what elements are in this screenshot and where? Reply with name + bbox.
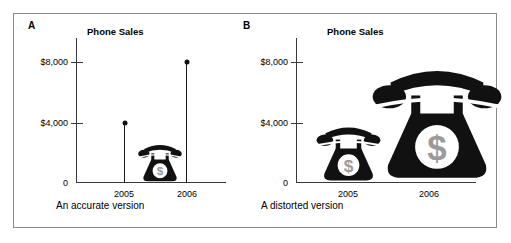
panel-a-y-axis xyxy=(76,38,77,183)
panel-a-title: Phone Sales xyxy=(87,26,144,37)
panel-b-ytick-4000 xyxy=(291,123,303,124)
svg-text:$: $ xyxy=(344,156,354,176)
panel-b-ylabel-8000: $8,000 xyxy=(260,57,288,67)
figure-container: A Phone Sales $8,000 $4,000 0 xyxy=(0,0,511,243)
svg-text:$: $ xyxy=(427,129,446,167)
panel-a: A Phone Sales $8,000 $4,000 0 xyxy=(14,14,254,227)
panel-a-xtick-2006: 2006 xyxy=(177,189,197,199)
telephone-money-icon: $ xyxy=(138,142,182,183)
panel-a-ytick-4000 xyxy=(71,123,83,124)
panel-b: B Phone Sales $8,000 $4,000 0 xyxy=(229,14,498,227)
panel-b-ylabel-0: 0 xyxy=(283,178,288,188)
panel-a-ylabel-8000: $8,000 xyxy=(40,57,68,67)
panel-b-ylabel-4000: $4,000 xyxy=(260,118,288,128)
panel-b-ytick-8000 xyxy=(291,62,303,63)
panel-a-stem-2005 xyxy=(124,123,125,183)
svg-text:$: $ xyxy=(157,164,164,177)
panel-b-xtick-2005: 2005 xyxy=(338,189,358,199)
figure-border: A Phone Sales $8,000 $4,000 0 xyxy=(13,13,497,228)
panel-b-letter: B xyxy=(243,20,251,31)
panel-a-ytick-8000 xyxy=(71,62,83,63)
panel-a-ylabel-0: 0 xyxy=(63,178,68,188)
panel-a-datapoint-2006 xyxy=(184,60,189,65)
panel-b-caption: A distorted version xyxy=(261,200,343,211)
panel-a-stem-2006 xyxy=(186,62,187,183)
panel-b-y-axis xyxy=(296,38,297,183)
panel-a-datapoint-2005 xyxy=(122,121,127,126)
panel-b-title: Phone Sales xyxy=(327,26,384,37)
panel-a-caption: An accurate version xyxy=(56,200,144,211)
panel-a-ylabel-4000: $4,000 xyxy=(40,118,68,128)
panel-b-xtick-2006: 2006 xyxy=(419,189,439,199)
panel-a-xtick-2005: 2005 xyxy=(114,189,134,199)
panel-b-plot-area: $8,000 $4,000 0 $ xyxy=(296,38,476,183)
panel-a-letter: A xyxy=(28,20,36,31)
panel-a-plot-area: $8,000 $4,000 0 xyxy=(76,38,226,183)
telephone-money-icon-2006: $ xyxy=(372,62,502,183)
